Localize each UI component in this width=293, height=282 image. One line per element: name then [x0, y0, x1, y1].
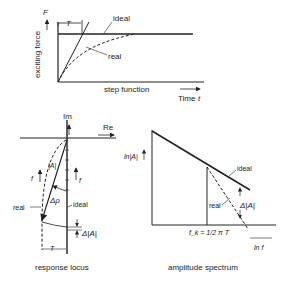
real-leader	[222, 198, 230, 205]
ideal-leader	[104, 22, 112, 33]
delta-arc	[42, 222, 67, 227]
step-function-diagram: T F exciting force ideal real step funct…	[33, 8, 204, 103]
time-label: Time	[178, 94, 196, 103]
y-axis-label: exciting force	[33, 30, 42, 78]
amplitude-spectrum-title: amplitude spectrum	[168, 263, 238, 272]
ideal-line	[152, 131, 250, 190]
real-leader	[86, 47, 107, 55]
ideal-label: ideal	[73, 201, 88, 208]
y-axis-label: ln|A|	[124, 153, 138, 161]
amplitude-spectrum-diagram: ln|A| ideal real Δ|A| f_k = 1/2 π T ln f…	[124, 130, 276, 272]
magnitude-delta-label: Δ|A|	[239, 201, 255, 210]
diagram-canvas: T F exciting force ideal real step funct…	[0, 0, 293, 282]
f-symbol: F	[43, 8, 49, 17]
phase-arc	[53, 186, 66, 191]
response-locus-title: response locus	[35, 263, 89, 272]
corner-freq-label: f_k = 1/2 π T	[189, 229, 230, 236]
magnitude-delta-label: Δ|A|	[81, 229, 97, 238]
time-constant-label: T	[66, 19, 72, 28]
magnitude-label: |A|	[48, 162, 56, 170]
time-symbol: t	[198, 94, 201, 103]
re-label: Re	[103, 123, 114, 132]
real-label: real	[209, 202, 221, 209]
ideal-label: ideal	[113, 14, 130, 23]
freq-symbol-right: f	[79, 177, 82, 184]
real-label: real	[108, 52, 122, 61]
im-label: Im	[63, 112, 72, 121]
step-function-label: step function	[104, 85, 149, 94]
response-locus-diagram: Im Re |A| Δρ f f real ideal	[13, 112, 116, 272]
ideal-leader	[68, 205, 72, 207]
ideal-leader	[228, 170, 236, 177]
real-curve	[58, 34, 135, 82]
ideal-label: ideal	[237, 165, 252, 172]
phase-delta-label: Δρ	[49, 196, 60, 205]
real-label: real	[13, 204, 25, 211]
time-constant-label: T	[50, 245, 55, 252]
freq-symbol-left: f	[31, 175, 34, 182]
x-axis-label: ln f	[254, 244, 264, 251]
